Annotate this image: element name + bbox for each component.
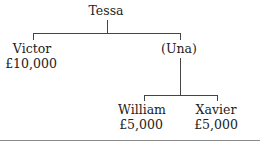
node-victor: Victor [13,42,51,56]
node-tessa: Tessa [88,4,123,18]
connector-tessa-down [107,20,108,33]
node-una: (Una) [161,42,197,56]
connector-una-down [180,58,181,95]
william-amount: £5,000 [119,118,163,132]
connector-to-xavier [217,95,218,101]
connector-tessa-children [33,33,181,34]
node-xavier: Xavier [196,103,237,117]
bottom-rule [0,140,260,141]
victor-amount: £10,000 [5,57,57,71]
connector-to-victor [33,33,34,40]
family-tree-diagram: Tessa Victor £10,000 (Una) William £5,00… [0,0,260,144]
connector-to-una [180,33,181,40]
xavier-amount: £5,000 [194,118,238,132]
connector-to-william [144,95,145,101]
node-william: William [118,103,166,117]
connector-una-children [144,95,218,96]
